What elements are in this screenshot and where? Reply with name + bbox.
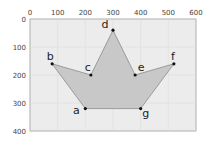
- point-label-e: e: [138, 61, 145, 74]
- x-tick-label: 100: [51, 9, 64, 17]
- y-tick-label: 100: [13, 44, 26, 52]
- x-tick-label: 400: [134, 9, 147, 17]
- point-label-g: g: [142, 107, 149, 120]
- point-label-c: c: [85, 61, 91, 74]
- y-tick-label: 400: [13, 128, 26, 136]
- point-marker-e: [134, 73, 137, 76]
- crown-polygon-chart: 0100200300400500600 0100200300400 abcdef…: [0, 0, 213, 143]
- y-tick-label: 200: [13, 72, 26, 80]
- y-tick-label: 300: [13, 100, 26, 108]
- x-tick-label: 200: [79, 9, 92, 17]
- x-axis-ticks: 0100200300400500600: [28, 9, 203, 17]
- y-tick-label: 0: [22, 16, 26, 24]
- x-tick-label: 0: [28, 9, 32, 17]
- point-marker-a: [84, 107, 87, 110]
- x-tick-label: 600: [189, 9, 202, 17]
- point-label-b: b: [47, 50, 54, 63]
- x-tick-label: 300: [106, 9, 119, 17]
- point-label-a: a: [73, 104, 80, 117]
- x-tick-label: 500: [162, 9, 175, 17]
- y-axis-ticks: 0100200300400: [13, 16, 26, 136]
- point-label-d: d: [102, 18, 109, 31]
- point-marker-d: [111, 29, 114, 32]
